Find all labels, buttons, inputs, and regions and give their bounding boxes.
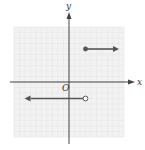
y-axis-arrow-icon xyxy=(67,12,72,19)
closed-dot xyxy=(83,47,88,52)
open-dot xyxy=(83,96,88,101)
y-axis-label: y xyxy=(65,1,72,11)
piecewise-graph: x y O xyxy=(0,0,145,150)
x-axis-label: x xyxy=(137,77,142,87)
x-axis-arrow-icon xyxy=(128,80,135,85)
origin-label: O xyxy=(62,83,70,93)
